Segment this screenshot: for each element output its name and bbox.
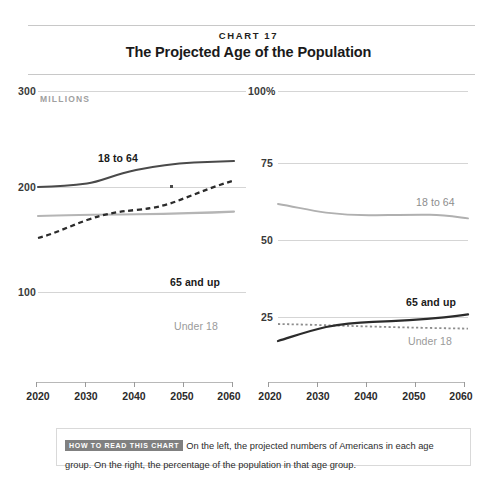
x-tick-label: 2020 — [26, 390, 49, 402]
x-tick — [232, 382, 233, 387]
x-tick — [268, 382, 269, 387]
x-tick-label: 2060 — [217, 390, 240, 402]
x-tick — [85, 382, 86, 387]
x-tick — [317, 382, 318, 387]
header-rule-bottom — [28, 74, 475, 75]
series-under18-left — [38, 212, 234, 216]
chart-kicker: CHART 17 — [0, 30, 497, 41]
series-under18-right — [278, 324, 468, 329]
print-artifact-dot — [170, 185, 173, 188]
x-tick-label: 2020 — [258, 390, 281, 402]
x-tick-label: 2050 — [402, 390, 425, 402]
series-label-18to64-left: 18 to 64 — [98, 152, 138, 164]
series-label-under18-right: Under 18 — [408, 335, 452, 347]
x-tick — [183, 382, 184, 387]
left-chart-series — [18, 84, 246, 394]
series-label-under18-left: Under 18 — [174, 320, 218, 332]
how-to-read-badge: HOW TO READ THIS CHART — [65, 440, 183, 451]
x-tick-label: 2040 — [354, 390, 377, 402]
series-label-65up-right: 65 and up — [406, 296, 456, 308]
x-tick-label: 2060 — [449, 390, 472, 402]
x-tick-label: 2030 — [74, 390, 97, 402]
page-title: The Projected Age of the Population — [0, 44, 497, 60]
series-65up-left — [38, 181, 234, 239]
x-tick-label: 2050 — [170, 390, 193, 402]
chart-page: CHART 17 The Projected Age of the Popula… — [0, 0, 497, 477]
x-tick-label: 2030 — [306, 390, 329, 402]
series-label-18to64-right: 18 to 64 — [416, 196, 455, 208]
right-chart-series — [248, 84, 484, 394]
x-tick — [415, 382, 416, 387]
series-18to64-left — [38, 161, 234, 187]
how-to-read-box: HOW TO READ THIS CHARTOn the left, the p… — [56, 428, 471, 466]
x-tick — [366, 382, 367, 387]
series-label-65up-left: 65 and up — [170, 276, 220, 288]
right-chart-panel: 100% 75 50 25 18 to 64 65 and up Under 1… — [248, 84, 484, 394]
x-tick — [36, 382, 37, 387]
x-tick — [134, 382, 135, 387]
x-tick-label: 2040 — [122, 390, 145, 402]
left-chart-panel: 300 MILLIONS 200 100 18 to 64 65 and up … — [18, 84, 246, 394]
header-rule-top — [28, 25, 475, 26]
x-tick — [464, 382, 465, 387]
